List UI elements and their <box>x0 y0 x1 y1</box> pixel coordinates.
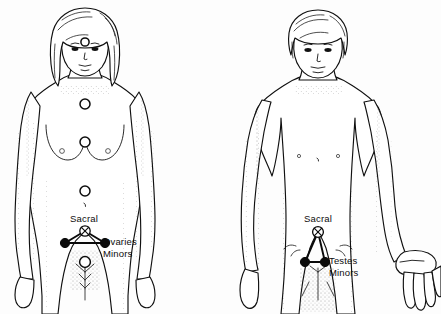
male-minors-label: Minors <box>329 267 359 278</box>
male-testes-label: Testes <box>329 255 357 266</box>
female-minors-label: Minors <box>103 248 133 259</box>
female-sacral-label: Sacral <box>70 213 98 224</box>
female-left-eye <box>72 47 79 51</box>
female-throat-point[interactable] <box>80 99 90 109</box>
female-ovaries-label: Ovaries <box>103 236 137 247</box>
female-ovary-point-left[interactable] <box>60 238 69 247</box>
male-testis-point-left[interactable] <box>300 257 309 266</box>
female-sacral-point[interactable] <box>80 226 90 236</box>
male-sacral-point[interactable] <box>313 227 324 238</box>
female-brow-point[interactable] <box>81 38 89 46</box>
male-left-eye <box>304 48 311 52</box>
illustration-page: Sacral Ovaries Minors <box>0 0 441 314</box>
female-right-eye <box>92 47 99 51</box>
female-solar-plexus-point[interactable] <box>80 186 90 196</box>
anatomy-diagram-canvas: Sacral Ovaries Minors <box>0 0 441 314</box>
male-sacral-label: Sacral <box>304 213 332 224</box>
male-right-eye <box>324 48 331 52</box>
female-heart-point[interactable] <box>80 137 90 147</box>
female-root-point[interactable] <box>80 257 91 268</box>
male-left-hand <box>240 269 259 308</box>
